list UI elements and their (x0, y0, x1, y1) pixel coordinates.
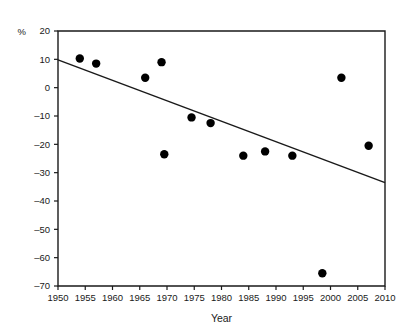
data-points-group (76, 54, 373, 277)
y-tick-label-6: –40 (34, 195, 50, 206)
data-point-8 (261, 147, 269, 155)
y-tick-label-9: –70 (34, 280, 50, 291)
x-tick-label-0: 1950 (47, 292, 68, 303)
trend-line (58, 60, 385, 183)
axes-group (58, 31, 385, 286)
data-point-6 (206, 119, 214, 127)
data-point-1 (92, 59, 100, 67)
y-axis-tick-labels: 20100–10–20–30–40–50–60–70 (34, 25, 50, 291)
plot-frame (58, 31, 385, 286)
y-tick-label-0: 20 (39, 25, 50, 36)
y-tick-label-4: –20 (34, 139, 50, 150)
data-point-5 (187, 113, 195, 121)
x-tick-label-6: 1980 (211, 292, 232, 303)
data-point-2 (141, 74, 149, 82)
y-tick-label-2: 0 (45, 82, 50, 93)
data-point-9 (288, 151, 296, 159)
x-tick-label-11: 2005 (347, 292, 368, 303)
data-point-4 (160, 150, 168, 158)
data-point-7 (239, 151, 247, 159)
x-tick-label-1: 1955 (75, 292, 96, 303)
scatter-plot-figure: 20100–10–20–30–40–50–60–70 1950195519601… (0, 0, 411, 333)
x-tick-label-8: 1990 (265, 292, 286, 303)
y-tick-label-8: –60 (34, 252, 50, 263)
x-axis-title: Year (211, 312, 233, 324)
x-axis-tick-labels: 1950195519601965197019751980198519901995… (47, 292, 395, 303)
y-tick-label-7: –50 (34, 224, 50, 235)
x-tick-label-9: 1995 (293, 292, 314, 303)
y-axis-unit-label: % (18, 26, 27, 37)
x-tick-label-12: 2010 (374, 292, 395, 303)
x-tick-label-7: 1985 (238, 292, 259, 303)
y-tick-label-1: 10 (39, 54, 50, 65)
y-tick-label-5: –30 (34, 167, 50, 178)
chart-canvas: 20100–10–20–30–40–50–60–70 1950195519601… (0, 0, 411, 333)
x-tick-label-3: 1965 (129, 292, 150, 303)
ticks-group (54, 31, 385, 290)
data-point-10 (318, 269, 326, 277)
data-point-12 (364, 142, 372, 150)
regression-line (58, 60, 385, 183)
data-point-11 (337, 74, 345, 82)
x-tick-label-10: 2000 (320, 292, 341, 303)
x-tick-label-4: 1970 (156, 292, 177, 303)
y-tick-label-3: –10 (34, 110, 50, 121)
data-point-0 (76, 54, 84, 62)
x-tick-label-5: 1975 (184, 292, 205, 303)
data-point-3 (157, 58, 165, 66)
x-tick-label-2: 1960 (102, 292, 123, 303)
